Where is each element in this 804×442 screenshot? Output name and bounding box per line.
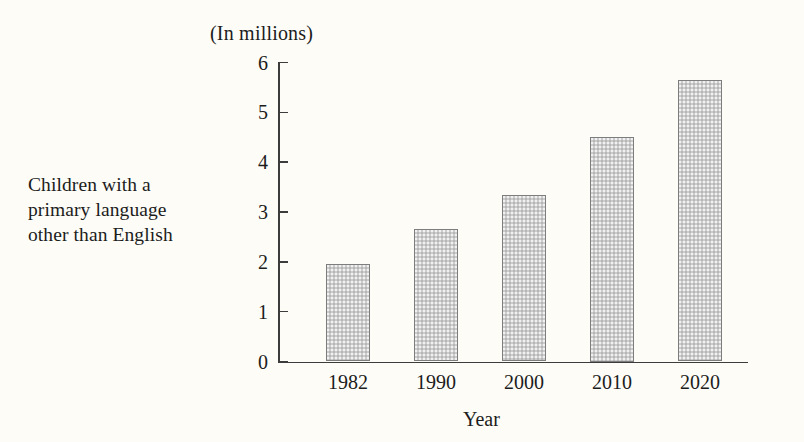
figure: Children with a primary language other t… [0, 0, 804, 442]
y-tick-mark [279, 311, 288, 313]
x-tick-label: 1990 [391, 372, 481, 392]
y-tick-label: 1 [240, 302, 268, 322]
x-tick-label: 2000 [479, 372, 569, 392]
y-tick-label: 6 [240, 53, 268, 73]
y-tick-mark [279, 261, 288, 263]
y-tick-label: 2 [240, 252, 268, 272]
y-tick-label: 4 [240, 152, 268, 172]
bar [502, 195, 546, 362]
bar [678, 80, 722, 362]
y-tick-mark [279, 211, 288, 213]
y-tick-mark [279, 161, 288, 163]
y-tick-mark [279, 361, 288, 363]
x-axis-line [278, 362, 748, 364]
y-tick-label: 3 [240, 202, 268, 222]
x-tick-label: 2020 [655, 372, 745, 392]
y-tick-label: 5 [240, 102, 268, 122]
y-tick-label: 0 [240, 352, 268, 372]
plot-area: 0123456 19821990200020102020 Year [0, 0, 804, 442]
bar [414, 229, 458, 361]
x-tick-label: 2010 [567, 372, 657, 392]
y-tick-mark [279, 62, 288, 64]
bar [590, 137, 634, 361]
y-tick-mark [279, 112, 288, 114]
x-tick-label: 1982 [303, 372, 393, 392]
x-axis-title: Year [463, 408, 500, 431]
bar [326, 264, 370, 361]
